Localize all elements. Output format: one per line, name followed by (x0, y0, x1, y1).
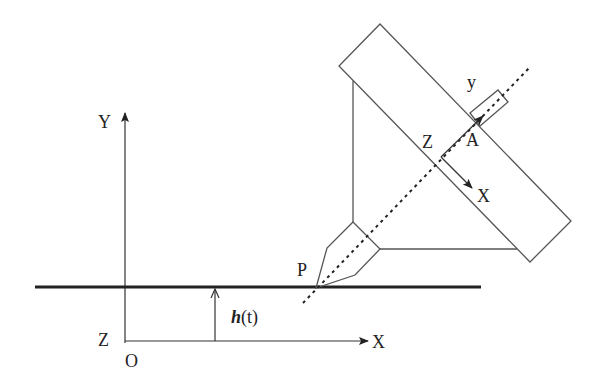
local-x-axis (441, 157, 472, 188)
tool-center-dashed-line (303, 66, 531, 303)
height-label: h(t) (231, 307, 258, 328)
diagram-canvas: Y X Z O h(t) P A Z X y (0, 0, 601, 386)
origin-label: O (125, 351, 138, 371)
local-y-label: y (467, 72, 476, 92)
local-x-label: X (477, 186, 490, 206)
global-y-label: Y (98, 112, 111, 132)
tool-tip-label: P (297, 260, 307, 280)
local-origin-label: A (466, 130, 479, 150)
local-z-label: Z (422, 132, 433, 152)
global-z-label: Z (98, 330, 109, 350)
global-x-label: X (372, 332, 385, 352)
